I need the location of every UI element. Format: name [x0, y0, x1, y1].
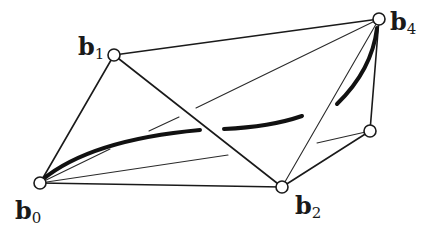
edge-b0-b4-segment-2: [149, 117, 179, 131]
label-b2: b2: [295, 191, 321, 222]
edge-b1-b4: [114, 19, 379, 55]
curve-segment-2: [224, 116, 302, 129]
point-labels: b0 b1 b2 b4: [15, 7, 416, 227]
label-b4: b4: [390, 7, 416, 38]
point-b2: [276, 181, 288, 193]
edge-b2-b3: [282, 131, 370, 187]
point-b0: [34, 177, 46, 189]
label-b1: b1: [78, 32, 104, 63]
edge-b0-b4-segment-3: [196, 19, 379, 108]
edge-b2-b4: [282, 19, 379, 187]
bezier-diagram: b0 b1 b2 b4: [0, 0, 437, 228]
label-b0: b0: [15, 196, 41, 227]
point-b4: [373, 13, 385, 25]
curve-segment-3: [337, 28, 377, 104]
point-b1: [108, 49, 120, 61]
edge-b0-b2: [40, 183, 282, 187]
point-b3: [364, 125, 376, 137]
edge-b1-b2: [114, 55, 282, 187]
edge-b0-b1: [40, 55, 114, 183]
